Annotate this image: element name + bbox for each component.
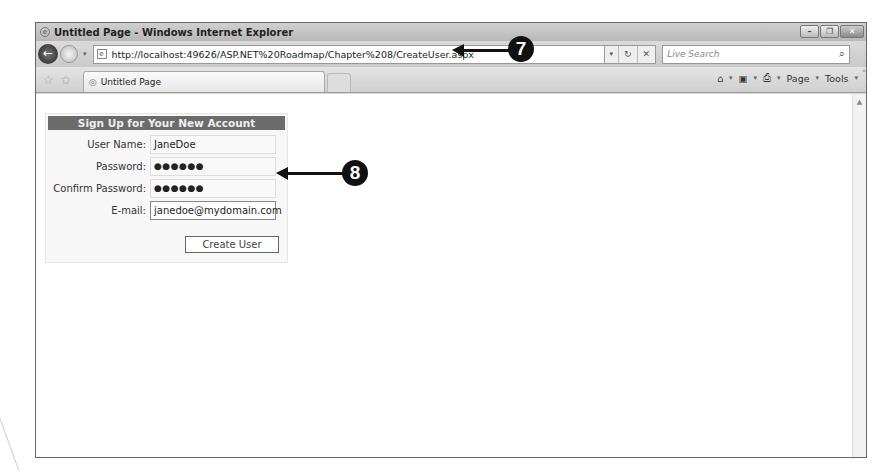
feeds-icon[interactable]: ▣ — [739, 73, 748, 84]
page-menu[interactable]: Page — [787, 73, 810, 84]
search-input[interactable]: Live Search — [667, 49, 719, 59]
confirm-password-label: Confirm Password: — [46, 183, 150, 194]
refresh-icon[interactable]: ↻ — [618, 46, 637, 63]
tools-menu[interactable]: Tools — [825, 73, 848, 84]
tab-untitled-page[interactable]: ◎ Untitled Page — [83, 71, 325, 92]
email-input[interactable]: janedoe@mydomain.com — [150, 201, 276, 220]
home-dropdown-icon[interactable]: ▾ — [729, 74, 733, 82]
close-button[interactable]: ✕ — [840, 25, 864, 38]
restore-button[interactable]: ❐ — [820, 25, 839, 38]
back-button[interactable]: ← — [38, 44, 58, 64]
page-icon: e — [97, 49, 107, 59]
callout-arrow-7 — [462, 49, 510, 52]
confirm-password-row: Confirm Password: ●●●●●● — [46, 179, 276, 198]
ie-logo-icon: e — [40, 27, 50, 37]
print-icon[interactable]: ⎙ — [763, 72, 771, 84]
address-dropdown-icon[interactable]: ▾ — [605, 46, 619, 63]
address-url[interactable]: http://localhost:49626/ASP.NET%20Roadmap… — [112, 49, 474, 60]
scroll-up-icon[interactable]: ▲ — [853, 98, 866, 106]
password-label: Password: — [46, 161, 150, 172]
callout-8: 8 — [342, 160, 368, 186]
navigation-bar: ← ▾ e http://localhost:49626/ASP.NET%20R… — [36, 41, 866, 67]
history-dropdown-icon[interactable]: ▾ — [83, 50, 87, 58]
forward-button[interactable] — [60, 45, 78, 63]
home-icon[interactable]: ⌂ — [717, 73, 723, 84]
new-tab-button[interactable] — [327, 73, 351, 92]
email-label: E-mail: — [46, 205, 150, 216]
tools-dropdown-icon[interactable]: ▾ — [854, 74, 858, 82]
password-input[interactable]: ●●●●●● — [150, 157, 276, 176]
print-dropdown-icon[interactable]: ▾ — [777, 74, 781, 82]
callout-arrow-8 — [286, 172, 344, 175]
tab-bar: ☆ ✩ ◎ Untitled Page ⌂▾ ▣▾ ⎙▾ Page▾ Tools… — [36, 67, 866, 93]
window-title: Untitled Page - Windows Internet Explore… — [54, 27, 293, 38]
create-user-form: Sign Up for Your New Account User Name: … — [45, 113, 288, 263]
vertical-scrollbar[interactable]: ▲ — [852, 94, 866, 457]
email-row: E-mail: janedoe@mydomain.com — [46, 201, 276, 220]
create-user-button[interactable]: Create User — [185, 236, 279, 253]
favorites-star-icon[interactable]: ☆ — [43, 73, 54, 87]
window-controls: – ❐ ✕ — [800, 25, 864, 38]
tab-page-icon: ◎ — [89, 77, 97, 87]
confirm-password-input[interactable]: ●●●●●● — [150, 179, 276, 198]
username-row: User Name: JaneDoe — [46, 135, 276, 154]
password-row: Password: ●●●●●● — [46, 157, 276, 176]
feeds-dropdown-icon[interactable]: ▾ — [754, 74, 758, 82]
username-label: User Name: — [46, 139, 150, 150]
search-icon[interactable]: ⌕ — [839, 48, 845, 60]
minimize-button[interactable]: – — [800, 25, 819, 38]
browser-window: e Untitled Page - Windows Internet Explo… — [35, 22, 867, 458]
add-favorites-icon[interactable]: ✩ — [61, 73, 71, 87]
page-content: Sign Up for Your New Account User Name: … — [36, 94, 866, 457]
command-bar: ⌂▾ ▣▾ ⎙▾ Page▾ Tools▾ » — [717, 72, 858, 84]
title-bar: e Untitled Page - Windows Internet Explo… — [36, 23, 866, 41]
form-header: Sign Up for Your New Account — [48, 116, 285, 130]
username-input[interactable]: JaneDoe — [150, 135, 276, 154]
search-box[interactable]: Live Search ⌕ — [662, 45, 850, 64]
callout-7: 7 — [508, 36, 534, 62]
page-dropdown-icon[interactable]: ▾ — [816, 74, 820, 82]
more-chevron-icon[interactable]: » — [862, 67, 866, 75]
stop-icon[interactable]: ✕ — [637, 46, 656, 63]
tab-label: Untitled Page — [101, 77, 161, 87]
address-buttons: ▾ ↻ ✕ — [605, 45, 657, 64]
